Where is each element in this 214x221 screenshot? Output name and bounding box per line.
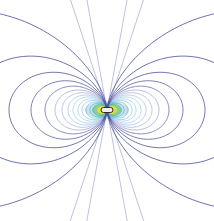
dipole-field-plot [0, 0, 214, 221]
field-lines-svg [0, 0, 214, 221]
dipole-core-shape [101, 108, 113, 113]
dipole-core [101, 108, 113, 113]
